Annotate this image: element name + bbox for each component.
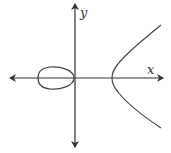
x-axis-label: x: [147, 63, 154, 76]
elliptic-curve-diagram: [0, 0, 171, 153]
y-axis-label: y: [80, 6, 87, 19]
